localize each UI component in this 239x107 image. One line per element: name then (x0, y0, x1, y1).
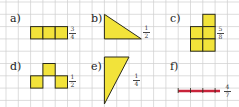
fraction-e: 1 4 (133, 73, 140, 87)
shape-a (31, 27, 68, 39)
fraction-d: 1 2 (69, 74, 76, 88)
label-e: e) (91, 61, 102, 72)
label-c: c) (170, 13, 180, 24)
fraction-b-denominator: 2 (143, 33, 150, 39)
fraction-a-denominator: 4 (69, 34, 76, 40)
fraction-c: 5 8 (217, 26, 224, 40)
fraction-e-denominator: 4 (133, 81, 140, 87)
fraction-a: 3 4 (69, 26, 76, 40)
fraction-f-denominator: 7 (224, 92, 231, 98)
fraction-figures-diagram: a) b) c) d) e) f) 3 4 1 2 5 8 1 2 1 4 4 … (0, 0, 239, 107)
fraction-f: 4 7 (224, 84, 231, 98)
shape-d (31, 64, 68, 89)
label-d: d) (10, 61, 21, 72)
fraction-a-numerator: 3 (69, 26, 76, 32)
label-f: f) (170, 61, 178, 72)
fraction-c-numerator: 5 (217, 26, 224, 32)
grid-and-shapes (0, 0, 239, 107)
fraction-c-denominator: 8 (217, 34, 224, 40)
shape-c (191, 14, 216, 51)
fraction-b-numerator: 1 (143, 25, 150, 31)
fraction-b: 1 2 (143, 25, 150, 39)
fraction-e-numerator: 1 (133, 73, 140, 79)
fraction-d-denominator: 2 (69, 82, 76, 88)
fraction-d-numerator: 1 (69, 74, 76, 80)
label-a: a) (10, 13, 21, 24)
shape-f (178, 88, 220, 93)
label-b: b) (91, 13, 102, 24)
fraction-f-numerator: 4 (224, 84, 231, 90)
